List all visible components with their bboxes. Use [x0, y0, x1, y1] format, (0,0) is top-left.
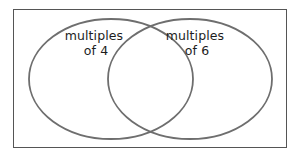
diagram-frame	[14, 10, 287, 148]
venn-diagram-figure: multiples of 4 multiples of 6	[0, 0, 301, 159]
left-set-label-line1: multiples	[65, 28, 123, 43]
right-set-label-line1: multiples	[166, 28, 224, 43]
right-set-label-line2: of 6	[185, 43, 209, 58]
venn-diagram-canvas: multiples of 4 multiples of 6	[0, 0, 301, 159]
left-set-label-line2: of 4	[84, 43, 108, 58]
